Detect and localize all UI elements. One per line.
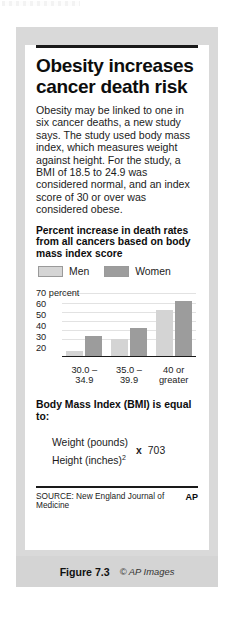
image-credit: © AP Images (120, 566, 175, 577)
source-rule (36, 486, 198, 487)
ytick-40: 40 (36, 322, 60, 331)
legend-swatch-women (104, 266, 129, 277)
bar-men-3 (156, 310, 173, 358)
ytick-20: 20 (36, 344, 60, 353)
x-axis-line (62, 356, 196, 358)
x-axis-labels: 30.0 – 34.9 35.0 – 39.9 40 or greater (62, 365, 196, 385)
scan-artifact (2, 1, 80, 6)
ytick-30: 30 (36, 333, 60, 342)
legend-swatch-men (38, 266, 63, 277)
figure-page: Obesity increases cancer death risk Obes… (0, 0, 234, 617)
bar-group-1 (62, 293, 107, 357)
bmi-formula-title: Body Mass Index (BMI) is equal to: (36, 399, 198, 423)
bar-group-2 (107, 293, 152, 357)
bmi-factor: 703 (148, 445, 165, 456)
bar-group-3 (151, 293, 196, 357)
bmi-denominator-text: Height (inches) (52, 455, 122, 466)
xlabel-1: 30.0 – 34.9 (62, 365, 107, 385)
xlabel-2: 35.0 – 39.9 (107, 365, 152, 385)
bar-chart: 70 percent 60 50 40 30 20 30.0 – 34.9 35… (36, 283, 198, 369)
bmi-fraction: Weight (pounds) Height (inches)2 (52, 432, 128, 468)
bar-women-3 (175, 301, 192, 358)
bmi-formula: Weight (pounds) Height (inches)2 x 703 (52, 432, 198, 468)
ytick-70: 70 percent (36, 289, 106, 298)
headline: Obesity increases cancer death risk (36, 55, 198, 97)
plot-area (62, 293, 196, 357)
bmi-numerator: Weight (pounds) (52, 437, 128, 448)
news-graphic-card: Obesity increases cancer death risk Obes… (25, 45, 209, 550)
chart-legend: Men Women (38, 266, 198, 277)
source-text: SOURCE: New England Journal of Medicine (36, 492, 176, 511)
bar-women-2 (130, 328, 147, 357)
bmi-denominator-exponent: 2 (122, 454, 126, 461)
ytick-60: 60 (36, 300, 60, 309)
legend-label-men: Men (69, 266, 89, 277)
figure-caption: Figure 7.3 © AP Images (16, 556, 218, 587)
bar-groups (62, 293, 196, 357)
figure-number: Figure 7.3 (60, 566, 110, 578)
bar-men-2 (111, 339, 128, 357)
bmi-operator: x (136, 445, 142, 456)
body-text: Obesity may be linked to one in six canc… (36, 104, 198, 216)
bmi-denominator: Height (inches)2 (52, 455, 126, 466)
figure-frame: Obesity increases cancer death risk Obes… (16, 27, 218, 587)
chart-title: Percent increase in death rates from all… (36, 225, 198, 260)
ytick-50: 50 (36, 311, 60, 320)
source-row: SOURCE: New England Journal of Medicine … (36, 492, 198, 511)
agency-credit: AP (185, 492, 198, 502)
bar-women-1 (85, 336, 102, 357)
xlabel-3: 40 or greater (151, 365, 196, 385)
legend-label-women: Women (135, 266, 171, 277)
top-rule (36, 45, 198, 48)
